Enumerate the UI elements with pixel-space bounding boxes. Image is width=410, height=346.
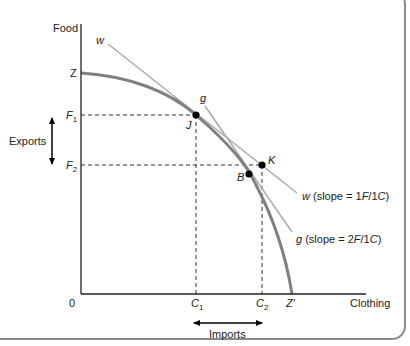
f1-label: F1 — [66, 109, 78, 124]
origin-label: 0 — [69, 297, 75, 309]
point-k — [258, 161, 265, 168]
guide-lines — [81, 115, 262, 294]
y-axis-label: Food — [53, 22, 78, 34]
c1-label: C1 — [191, 297, 204, 312]
exports-label: Exports — [9, 135, 47, 147]
imports-label: Imports — [209, 328, 246, 340]
ppf-trade-diagram: Food Clothing 0 Z Z′ w g J B K F1 F2 C1 … — [0, 0, 410, 346]
g-legend: g (slope = 2F/1C) — [296, 233, 381, 245]
k-label: K — [268, 154, 276, 166]
f2-label: F2 — [66, 159, 78, 174]
w-price-line — [108, 44, 297, 193]
g-line-label: g — [200, 92, 207, 104]
j-label: J — [185, 119, 192, 131]
point-j — [192, 111, 199, 118]
ppf-curve — [81, 73, 292, 294]
c2-label: C2 — [256, 297, 269, 312]
z-label: Z — [70, 67, 77, 79]
b-label: B — [237, 171, 244, 183]
z-prime-label: Z′ — [285, 297, 296, 309]
w-legend: w (slope = 1F/1C) — [302, 190, 389, 202]
point-b — [245, 170, 252, 177]
w-line-label: w — [96, 34, 105, 46]
x-axis-label: Clothing — [350, 297, 390, 309]
